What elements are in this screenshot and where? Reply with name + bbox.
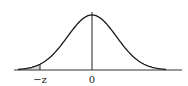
neg-z-label: −z [33, 75, 47, 85]
zero-label: 0 [89, 75, 95, 85]
